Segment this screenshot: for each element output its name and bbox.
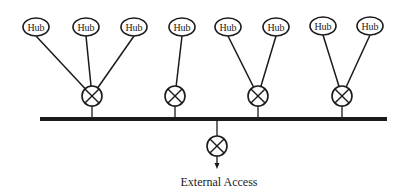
hub-node: Hub [121,18,147,36]
hub-node: Hub [215,18,241,36]
hub-label: Hub [173,22,190,33]
switch-1 [82,86,102,106]
hub-node: Hub [357,17,383,35]
hub-node: Hub [73,18,99,36]
hub-links [36,35,370,96]
hub-link [92,36,134,96]
switch-nodes [82,86,352,106]
switch-3 [248,86,268,106]
hub-label: Hub [361,21,378,32]
network-diagram: HubHubHubHubHubHubHubHub External Access [0,0,410,194]
hub-node: Hub [169,18,195,36]
hub-label: Hub [125,22,142,33]
external-access-label: External Access [181,175,258,189]
hub-node: Hub [23,18,49,36]
hub-nodes: HubHubHubHubHubHubHubHub [23,17,383,36]
hub-node: Hub [310,17,336,35]
external-switch [207,136,227,156]
external-access-group: External Access [181,119,258,189]
hub-link [36,36,92,96]
hub-label: Hub [27,22,44,33]
hub-label: Hub [267,22,284,33]
switch-4 [332,86,352,106]
hub-label: Hub [314,21,331,32]
hub-node: Hub [263,18,289,36]
arrow-down-icon [215,163,220,169]
hub-label: Hub [77,22,94,33]
switch-2 [165,86,185,106]
hub-label: Hub [219,22,236,33]
